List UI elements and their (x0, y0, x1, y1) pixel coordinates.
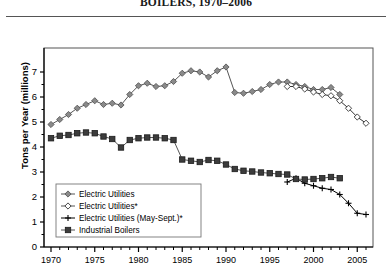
y-tick-label: 0 (32, 241, 37, 252)
data-point-marker (319, 91, 325, 97)
data-point-marker (101, 134, 106, 139)
data-point-marker (144, 80, 150, 86)
legend-label: Industrial Boilers (79, 226, 140, 235)
chart-legend: Electric UtilitiesElectric Utilities*Ele… (56, 184, 201, 237)
y-tick-label: 2 (32, 191, 37, 202)
legend-item[interactable]: Electric Utilities (May-Sept.)* (61, 214, 184, 223)
x-axis: 19701975198019851990199520002005 (41, 247, 373, 265)
x-tick-label: 1970 (41, 255, 61, 265)
data-point-marker (110, 136, 115, 141)
x-tick-label: 2000 (303, 255, 323, 265)
data-point-marker (215, 158, 220, 163)
y-tick-label: 1 (32, 216, 37, 227)
y-axis: 01234567 (32, 48, 44, 252)
data-point-marker (48, 121, 54, 127)
data-point-marker (337, 176, 342, 181)
data-point-marker (214, 68, 220, 74)
data-series (48, 130, 342, 182)
data-point-marker (206, 157, 211, 162)
data-point-marker (153, 83, 159, 89)
data-point-marker (162, 83, 168, 89)
data-point-marker (293, 176, 298, 181)
data-point-marker (319, 185, 325, 191)
data-point-marker (311, 183, 317, 189)
data-point-marker (171, 137, 176, 142)
y-tick-label: 5 (32, 116, 37, 127)
data-point-marker (92, 98, 98, 104)
data-point-marker (328, 187, 334, 193)
data-point-marker (232, 89, 238, 95)
data-point-marker (249, 88, 255, 94)
data-point-marker (153, 135, 158, 140)
data-point-marker (232, 166, 237, 171)
data-point-marker (83, 130, 88, 135)
data-point-marker (83, 101, 89, 107)
legend-label: Electric Utilities (May-Sept.)* (79, 214, 184, 223)
data-point-marker (363, 212, 369, 218)
x-tick-label: 1990 (216, 255, 236, 265)
data-point-marker (65, 111, 71, 117)
data-point-marker (100, 101, 106, 107)
data-point-marker (320, 176, 325, 181)
data-point-marker (48, 136, 53, 141)
data-point-marker (223, 162, 228, 167)
data-point-marker (188, 68, 194, 74)
x-tick-label: 1980 (128, 255, 148, 265)
data-point-marker (250, 169, 255, 174)
data-point-marker (197, 69, 203, 75)
data-point-marker (205, 74, 211, 80)
legend-label: Electric Utilities* (79, 202, 139, 211)
data-point-marker (136, 136, 141, 141)
data-point-marker (275, 79, 281, 85)
data-point-marker (267, 171, 272, 176)
data-series (48, 64, 343, 128)
data-point-marker (188, 158, 193, 163)
data-point-marker (65, 227, 70, 232)
chart-figure: BOILERS, 1970–2006 Tons per Year (millio… (0, 0, 392, 276)
data-point-marker (197, 159, 202, 164)
data-point-marker (162, 136, 167, 141)
data-point-marker (284, 83, 290, 89)
data-series (284, 83, 369, 126)
data-point-marker (145, 135, 150, 140)
y-tick-label: 6 (32, 91, 37, 102)
data-point-marker (75, 131, 80, 136)
data-point-marker (285, 172, 290, 177)
x-tick-label: 1985 (172, 255, 192, 265)
data-point-marker (258, 86, 264, 92)
data-point-marker (57, 133, 62, 138)
data-point-marker (241, 168, 246, 173)
data-point-marker (267, 81, 273, 87)
data-point-marker (66, 132, 71, 137)
data-point-marker (276, 171, 281, 176)
x-tick-label: 1975 (85, 255, 105, 265)
data-point-marker (180, 157, 185, 162)
y-tick-label: 3 (32, 166, 37, 177)
data-point-marker (302, 177, 307, 182)
data-point-marker (109, 100, 115, 106)
data-point-marker (223, 64, 229, 70)
y-tick-label: 4 (32, 141, 37, 152)
data-point-marker (363, 120, 369, 126)
legend-label: Electric Utilities (79, 190, 135, 199)
x-tick-label: 2005 (347, 255, 367, 265)
data-point-marker (118, 145, 123, 150)
x-tick-label: 1995 (260, 255, 280, 265)
data-point-marker (92, 131, 97, 136)
data-point-marker (74, 105, 80, 111)
filled-square-icon (65, 227, 70, 232)
y-tick-label: 7 (32, 66, 37, 77)
data-point-marker (328, 93, 334, 99)
data-point-marker (258, 170, 263, 175)
data-point-marker (57, 116, 63, 122)
chart-canvas: 01234567 1970197519801985199019952000200… (0, 0, 392, 276)
data-point-marker (284, 179, 290, 185)
data-point-marker (240, 90, 246, 96)
data-point-marker (328, 174, 333, 179)
data-point-marker (311, 176, 316, 181)
data-point-marker (127, 137, 132, 142)
